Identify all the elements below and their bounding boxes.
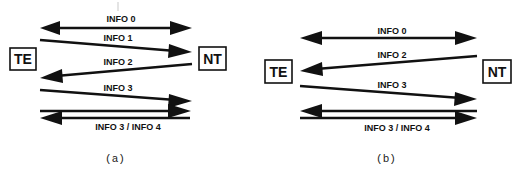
signal-label: INFO 3 — [377, 80, 406, 90]
signal-info1-a: INFO 1 — [40, 33, 192, 58]
arrowhead-left-icon — [40, 69, 63, 83]
signal-info0-a: INFO 0 — [40, 14, 192, 35]
signal-label: INFO 2 — [377, 50, 406, 60]
activation-diagram: TE NT INFO 0 INFO 1 INFO 2 INFO 3 — [0, 0, 519, 176]
arrowhead-left-icon — [300, 31, 322, 45]
signal-info0-b: INFO 0 — [300, 26, 477, 45]
panel-b: TE NT INFO 0 INFO 2 INFO 3 — [265, 26, 511, 165]
signal-label: INFO 0 — [106, 14, 135, 24]
te-label: TE — [14, 51, 32, 67]
signal-label: INFO 2 — [103, 57, 132, 67]
nt-node-b: NT — [483, 60, 511, 83]
signal-info3-a: INFO 3 — [40, 83, 192, 108]
arrowhead-left-icon — [40, 111, 62, 125]
panel-caption: (a) — [105, 153, 125, 165]
te-node-a: TE — [10, 48, 36, 70]
signal-info3-info4-b: INFO 3 / INFO 4 — [300, 104, 477, 133]
signal-info2-b: INFO 2 — [300, 50, 477, 76]
signal-info3-info4-a: INFO 3 / INFO 4 — [40, 104, 191, 132]
nt-label: NT — [488, 64, 507, 80]
arrowhead-left-icon — [300, 62, 323, 76]
nt-node-a: NT — [199, 47, 226, 70]
arrowhead-left-icon — [40, 21, 60, 35]
signal-info3-b: INFO 3 — [300, 80, 477, 106]
arrowhead-right-icon — [454, 92, 477, 106]
arrowhead-right-icon — [455, 31, 477, 45]
arrowhead-right-icon — [168, 104, 191, 118]
te-label: TE — [270, 64, 288, 80]
arrowhead-right-icon — [168, 44, 192, 58]
arrowhead-right-icon — [455, 111, 477, 125]
panel-a: TE NT INFO 0 INFO 1 INFO 2 INFO 3 — [10, 14, 226, 165]
panel-caption: (b) — [376, 153, 396, 165]
nt-label: NT — [203, 51, 222, 67]
arrowhead-right-icon — [170, 21, 192, 35]
signal-label: INFO 3 / INFO 4 — [95, 122, 161, 132]
signal-info2-a: INFO 2 — [40, 57, 192, 83]
signal-label: INFO 3 — [103, 83, 132, 93]
arrowhead-left-icon — [300, 104, 322, 118]
te-node-b: TE — [265, 60, 292, 83]
signal-label: INFO 0 — [377, 26, 406, 36]
signal-label: INFO 3 / INFO 4 — [364, 123, 430, 133]
signal-label: INFO 1 — [103, 33, 132, 43]
